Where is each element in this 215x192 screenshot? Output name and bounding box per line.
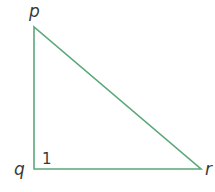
angle-label-1: 1 <box>42 150 52 168</box>
triangle-diagram: p q r 1 <box>0 0 215 192</box>
triangle-pqr <box>34 27 201 169</box>
vertex-label-q: q <box>14 159 25 179</box>
vertex-label-r: r <box>205 159 213 179</box>
vertex-label-p: p <box>28 1 40 21</box>
